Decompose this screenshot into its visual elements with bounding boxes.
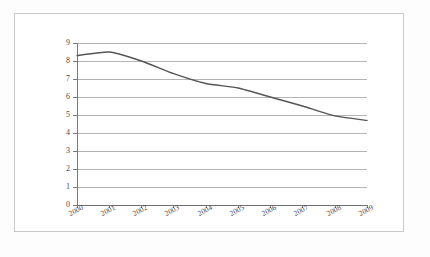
y-tick-9 xyxy=(73,43,78,44)
gridline-6 xyxy=(77,97,367,98)
y-axis-tick-label: 6 xyxy=(48,93,70,101)
y-tick-5 xyxy=(73,115,78,116)
y-axis-tick-label: 4 xyxy=(48,129,70,137)
y-tick-3 xyxy=(73,151,78,152)
gridline-9 xyxy=(77,43,367,44)
y-tick-7 xyxy=(73,79,78,80)
y-axis-tick-label: 9 xyxy=(48,39,70,47)
gridline-2 xyxy=(77,169,367,170)
y-tick-2 xyxy=(73,169,78,170)
y-tick-6 xyxy=(73,97,78,98)
y-axis-tick-label: 1 xyxy=(48,183,70,191)
chart-page: 9 8 7 6 5 4 3 2 1 0 2000 2001 2002 2003 … xyxy=(0,0,430,257)
x-axis-line xyxy=(77,205,367,206)
y-axis-tick-label: 0 xyxy=(48,201,70,209)
gridline-4 xyxy=(77,133,367,134)
y-axis-line xyxy=(77,43,78,206)
y-axis-tick-label: 5 xyxy=(48,111,70,119)
y-axis-tick-label: 2 xyxy=(48,165,70,173)
gridline-5 xyxy=(77,115,367,116)
y-tick-1 xyxy=(73,187,78,188)
gridline-3 xyxy=(77,151,367,152)
plot-area xyxy=(77,43,367,205)
y-axis-tick-label: 3 xyxy=(48,147,70,155)
gridline-8 xyxy=(77,61,367,62)
y-axis-tick-label: 7 xyxy=(48,75,70,83)
gridline-7 xyxy=(77,79,367,80)
y-tick-4 xyxy=(73,133,78,134)
y-tick-8 xyxy=(73,61,78,62)
gridline-1 xyxy=(77,187,367,188)
y-axis-labels: 9 8 7 6 5 4 3 2 1 0 xyxy=(46,0,70,257)
y-axis-tick-label: 8 xyxy=(48,57,70,65)
